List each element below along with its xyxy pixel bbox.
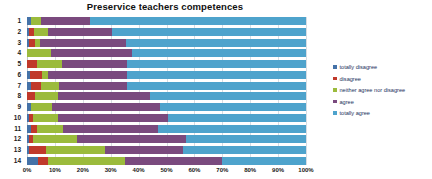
bar-segment[interactable] xyxy=(31,103,52,111)
legend-label: totally disagree xyxy=(340,64,378,70)
x-axis-label-20: 20% xyxy=(77,167,89,173)
bar-row[interactable] xyxy=(27,135,306,143)
bar-row[interactable] xyxy=(27,114,306,122)
bar-segment[interactable] xyxy=(160,103,306,111)
bar-segment[interactable] xyxy=(77,135,186,143)
y-axis-label-7: 7 xyxy=(0,82,24,90)
bar-segment[interactable] xyxy=(125,157,223,165)
bar-row[interactable] xyxy=(27,146,306,154)
bar-segment[interactable] xyxy=(46,146,105,154)
bar-row[interactable] xyxy=(27,71,306,79)
y-axis-label-1: 1 xyxy=(0,17,24,25)
bar-segment[interactable] xyxy=(30,71,43,79)
bar-segment[interactable] xyxy=(90,17,306,25)
x-axis-label-90: 90% xyxy=(272,167,284,173)
bar-segment[interactable] xyxy=(59,82,127,90)
bar-segment[interactable] xyxy=(183,146,306,154)
bar-segment[interactable] xyxy=(127,60,306,68)
y-axis-label-10: 10 xyxy=(0,114,24,122)
bar-segment[interactable] xyxy=(34,28,48,36)
bar-row[interactable] xyxy=(27,28,306,36)
bar-segment[interactable] xyxy=(126,39,306,47)
chart-container: Preservice teachers competences 12345678… xyxy=(0,0,432,179)
bar-segment[interactable] xyxy=(186,135,306,143)
bar-segment[interactable] xyxy=(41,82,59,90)
bar-segment[interactable] xyxy=(52,103,159,111)
bar-segment[interactable] xyxy=(27,49,51,57)
bar-segment[interactable] xyxy=(127,82,306,90)
bar-segment[interactable] xyxy=(48,157,125,165)
bar-segment[interactable] xyxy=(127,71,306,79)
gridline-100 xyxy=(306,17,307,165)
bar-row[interactable] xyxy=(27,103,306,111)
bar-row[interactable] xyxy=(27,92,306,100)
bar-segment[interactable] xyxy=(58,92,150,100)
legend-swatch-icon xyxy=(333,100,337,104)
bar-segment[interactable] xyxy=(38,157,48,165)
x-axis-label-0: 0% xyxy=(23,167,32,173)
bar-row[interactable] xyxy=(27,49,306,57)
bar-segment[interactable] xyxy=(41,17,90,25)
legend-item[interactable]: agree xyxy=(333,99,431,105)
chart-title: Preservice teachers competences xyxy=(0,1,330,12)
bar-segment[interactable] xyxy=(31,82,41,90)
legend-label: totally agree xyxy=(340,110,370,116)
bar-segment[interactable] xyxy=(37,60,62,68)
bar-segment[interactable] xyxy=(132,49,306,57)
bar-segment[interactable] xyxy=(27,92,35,100)
bar-segment[interactable] xyxy=(33,114,58,122)
bar-row[interactable] xyxy=(27,125,306,133)
x-axis-label-30: 30% xyxy=(105,167,117,173)
x-axis-label-50: 50% xyxy=(160,167,172,173)
x-axis-label-100: 100% xyxy=(298,167,313,173)
bar-segment[interactable] xyxy=(33,135,78,143)
bar-segment[interactable] xyxy=(58,114,168,122)
y-axis-label-2: 2 xyxy=(0,28,24,36)
bar-segment[interactable] xyxy=(27,157,38,165)
y-axis-label-12: 12 xyxy=(0,135,24,143)
bar-segment[interactable] xyxy=(48,28,112,36)
bar-segment[interactable] xyxy=(112,28,306,36)
bar-row[interactable] xyxy=(27,60,306,68)
x-axis-label-70: 70% xyxy=(216,167,228,173)
bar-row[interactable] xyxy=(27,17,306,25)
bar-row[interactable] xyxy=(27,39,306,47)
y-axis-label-13: 13 xyxy=(0,146,24,154)
y-axis-category-labels: 1234567891011121314 xyxy=(0,17,24,165)
chart-legend: totally disagreedisagreeneither agree no… xyxy=(333,64,431,116)
bar-segment[interactable] xyxy=(222,157,306,165)
bar-segment[interactable] xyxy=(168,114,306,122)
bar-row[interactable] xyxy=(27,82,306,90)
bar-segment[interactable] xyxy=(150,92,306,100)
legend-label: agree xyxy=(340,99,354,105)
bar-segment[interactable] xyxy=(31,17,41,25)
legend-item[interactable]: disagree xyxy=(333,76,431,82)
y-axis-label-3: 3 xyxy=(0,39,24,47)
bar-segment[interactable] xyxy=(40,39,126,47)
y-axis-label-8: 8 xyxy=(0,92,24,100)
y-axis-label-4: 4 xyxy=(0,49,24,57)
y-axis-label-14: 14 xyxy=(0,157,24,165)
bar-segment[interactable] xyxy=(37,125,64,133)
legend-swatch-icon xyxy=(333,111,337,115)
bar-segment[interactable] xyxy=(63,125,158,133)
legend-item[interactable]: totally disagree xyxy=(333,64,431,70)
y-axis-label-5: 5 xyxy=(0,60,24,68)
x-axis-label-40: 40% xyxy=(133,167,145,173)
bar-segment[interactable] xyxy=(62,60,128,68)
legend-item[interactable]: neither agree nor disagree xyxy=(333,87,431,93)
bar-segment[interactable] xyxy=(27,60,37,68)
legend-swatch-icon xyxy=(333,88,337,92)
legend-swatch-icon xyxy=(333,77,337,81)
x-axis-label-10: 10% xyxy=(49,167,61,173)
y-axis-label-6: 6 xyxy=(0,71,24,79)
bar-segment[interactable] xyxy=(29,146,46,154)
bar-segment[interactable] xyxy=(158,125,306,133)
bar-segment[interactable] xyxy=(35,92,57,100)
bar-segment[interactable] xyxy=(105,146,183,154)
legend-item[interactable]: totally agree xyxy=(333,110,431,116)
bar-row[interactable] xyxy=(27,157,306,165)
bar-segment[interactable] xyxy=(48,71,128,79)
bar-segment[interactable] xyxy=(51,49,132,57)
y-axis-label-9: 9 xyxy=(0,103,24,111)
